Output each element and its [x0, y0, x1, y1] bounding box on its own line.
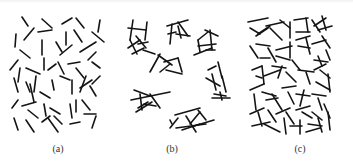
rod-segment	[198, 44, 216, 46]
rod-segment	[14, 118, 18, 130]
rod-segment	[98, 20, 100, 32]
rod-segment	[250, 108, 264, 114]
rod-segment	[62, 18, 72, 24]
rod-segment	[272, 94, 282, 110]
rod-segment	[306, 18, 308, 32]
rod-segment	[220, 92, 222, 100]
rod-segment	[306, 128, 320, 132]
rod-segment	[254, 94, 256, 110]
rod-segment	[82, 100, 90, 110]
rod-segment	[268, 110, 276, 122]
rod-segment	[272, 66, 286, 68]
rod-segment	[74, 30, 82, 42]
rod-segment	[22, 17, 28, 26]
rod-segment	[20, 50, 30, 58]
rod-segment	[292, 60, 300, 70]
rod-segment	[26, 120, 34, 132]
rod-segment	[312, 40, 326, 44]
rod-segment	[312, 94, 326, 96]
rod-segment	[248, 18, 268, 22]
rod-segment	[48, 64, 56, 70]
rod-segment	[300, 90, 304, 106]
rod-segment	[264, 124, 280, 132]
rod-segment	[286, 72, 296, 82]
rod-segment	[178, 58, 182, 72]
rod-segment	[76, 18, 84, 28]
rod-segment	[178, 26, 181, 38]
rod-segment	[316, 82, 330, 90]
rod-segment	[264, 70, 280, 76]
rod-segment	[150, 54, 160, 72]
rod-segment	[222, 76, 226, 92]
rod-segment	[128, 28, 146, 30]
rod-segment	[28, 110, 38, 118]
rod-segment	[30, 84, 34, 102]
rod-segment	[270, 28, 282, 40]
rod-segment	[322, 36, 330, 48]
panels-canvas	[0, 0, 353, 164]
rod-segment	[318, 98, 322, 110]
rod-segment	[170, 120, 172, 124]
rod-segment	[312, 112, 322, 120]
panel-a-label: (a)	[52, 143, 63, 154]
rod-segment	[145, 22, 147, 40]
rod-segment	[92, 76, 100, 84]
rod-segment	[276, 56, 290, 60]
rod-segment	[50, 108, 60, 114]
rod-segment	[22, 102, 36, 106]
rod-segment	[282, 86, 296, 88]
panel-c-rods	[248, 16, 332, 134]
rod-segment	[306, 38, 310, 54]
rod-segment	[208, 66, 216, 70]
rod-segment	[194, 48, 212, 55]
rod-segment	[288, 92, 294, 104]
rod-segment	[198, 32, 208, 40]
rod-segment	[326, 50, 330, 60]
rod-segment	[276, 108, 290, 114]
rod-segment	[15, 34, 16, 47]
rod-segment	[38, 30, 52, 32]
rod-segment	[306, 72, 310, 84]
rod-segment	[262, 66, 264, 84]
rod-segment	[42, 19, 52, 28]
rod-segment	[70, 122, 80, 124]
figure: (a) (b) (c)	[0, 0, 353, 164]
rod-segment	[280, 20, 290, 28]
rod-segment	[80, 42, 96, 52]
panel-b-label: (b)	[166, 143, 178, 154]
rod-segment	[60, 45, 72, 55]
rod-segment	[44, 104, 46, 116]
rod-segment	[143, 50, 155, 54]
rod-segment	[166, 70, 182, 74]
rod-segment	[286, 112, 294, 124]
rod-segment	[296, 36, 310, 40]
rod-segment	[68, 62, 80, 64]
rod-segment	[168, 32, 176, 34]
rod-segment	[198, 110, 206, 120]
panel-a-rods	[10, 17, 104, 132]
rod-segment	[88, 52, 96, 60]
rod-segment	[54, 116, 62, 124]
rod-segment	[262, 92, 276, 96]
rod-segment	[92, 32, 104, 42]
rod-segment	[268, 48, 276, 62]
rod-segment	[92, 62, 100, 68]
rod-segment	[134, 90, 150, 96]
panel-c-label: (c)	[294, 143, 305, 154]
rod-segment	[302, 112, 312, 118]
rod-segment	[12, 100, 18, 108]
rod-segment	[250, 84, 264, 90]
rod-segment	[24, 28, 34, 40]
rod-segment	[252, 66, 262, 70]
rod-segment	[175, 108, 200, 115]
rod-segment	[18, 68, 20, 82]
rod-segment	[314, 60, 328, 62]
rod-segment	[256, 44, 270, 46]
rod-segment	[14, 78, 18, 92]
rod-segment	[284, 118, 286, 134]
rod-segment	[48, 118, 58, 132]
rod-segment	[138, 42, 148, 44]
rod-segment	[190, 112, 200, 124]
rod-segment	[26, 68, 40, 74]
rod-segment	[92, 116, 96, 128]
